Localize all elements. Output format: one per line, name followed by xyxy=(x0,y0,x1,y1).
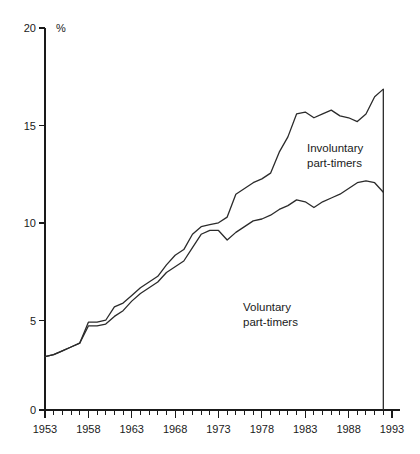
series-line-voluntary-part-timers xyxy=(45,181,383,357)
x-tick-label-1993: 1993 xyxy=(380,423,404,435)
y-tick-label-0: 0 xyxy=(30,404,36,416)
y-axis-unit-label: % xyxy=(56,22,66,34)
annotation-involuntary-line2: part-timers xyxy=(307,157,362,169)
x-tick-label-1983: 1983 xyxy=(293,423,317,435)
x-tick-label-1978: 1978 xyxy=(250,423,274,435)
annotation-involuntary: Involuntary part-timers xyxy=(307,142,364,169)
y-tick-label-20: 20 xyxy=(24,22,36,34)
y-tick-label-5: 5 xyxy=(30,315,36,327)
line-chart: 20 15 10 5 0 % 1953195819631968197319781… xyxy=(0,0,420,454)
series-line-involuntary-part-timers xyxy=(45,89,383,356)
x-tick-label-1973: 1973 xyxy=(206,423,230,435)
y-axis-ticks xyxy=(39,28,45,410)
x-tick-label-1968: 1968 xyxy=(163,423,187,435)
annotation-involuntary-line1: Involuntary xyxy=(307,142,364,154)
annotation-voluntary-line1: Voluntary xyxy=(243,301,291,313)
y-tick-label-15: 15 xyxy=(24,120,36,132)
annotation-voluntary-line2: part-timers xyxy=(243,316,298,328)
y-axis-tick-labels: 20 15 10 5 0 xyxy=(24,22,36,416)
x-tick-label-1963: 1963 xyxy=(120,423,144,435)
chart-container: 20 15 10 5 0 % 1953195819631968197319781… xyxy=(0,0,420,454)
annotation-voluntary: Voluntary part-timers xyxy=(243,301,298,328)
y-tick-label-10: 10 xyxy=(24,217,36,229)
x-tick-label-1953: 1953 xyxy=(33,423,57,435)
x-tick-label-1958: 1958 xyxy=(76,423,100,435)
x-tick-label-1988: 1988 xyxy=(336,423,360,435)
x-axis-tick-labels: 195319581963196819731978198319881993 xyxy=(33,423,404,435)
